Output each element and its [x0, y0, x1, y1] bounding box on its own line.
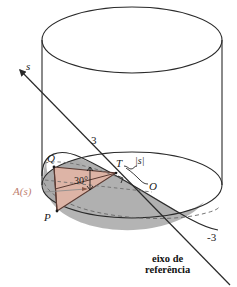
marker-P: [56, 210, 59, 213]
label-point-Q: Q: [47, 153, 55, 165]
reference-axis-line-2: referência: [145, 264, 190, 275]
label-area-function: A(s): [13, 186, 31, 198]
label-angle: 30°: [74, 176, 88, 187]
label-radius-top: 3: [91, 135, 97, 147]
label-point-T: T: [116, 158, 122, 170]
label-distance-s: |s|: [135, 156, 144, 167]
figure-canvas: [0, 0, 237, 287]
label-reference-axis: eixo de referência: [145, 253, 190, 275]
label-radius-bottom: -3: [207, 232, 216, 244]
label-s-axis: s: [26, 61, 30, 73]
marker-Q: [53, 166, 56, 169]
distance-brace: [124, 166, 148, 184]
label-point-P: P: [44, 212, 51, 224]
cylinder-top-ellipse: [42, 7, 222, 73]
marker-T: [115, 172, 118, 175]
label-point-O: O: [149, 181, 157, 193]
reference-axis-line-1: eixo de: [145, 253, 190, 264]
cylinder-cross-section-figure: s 3 Q P T O |s| 30° -3 A(s) eixo de refe…: [0, 0, 237, 287]
